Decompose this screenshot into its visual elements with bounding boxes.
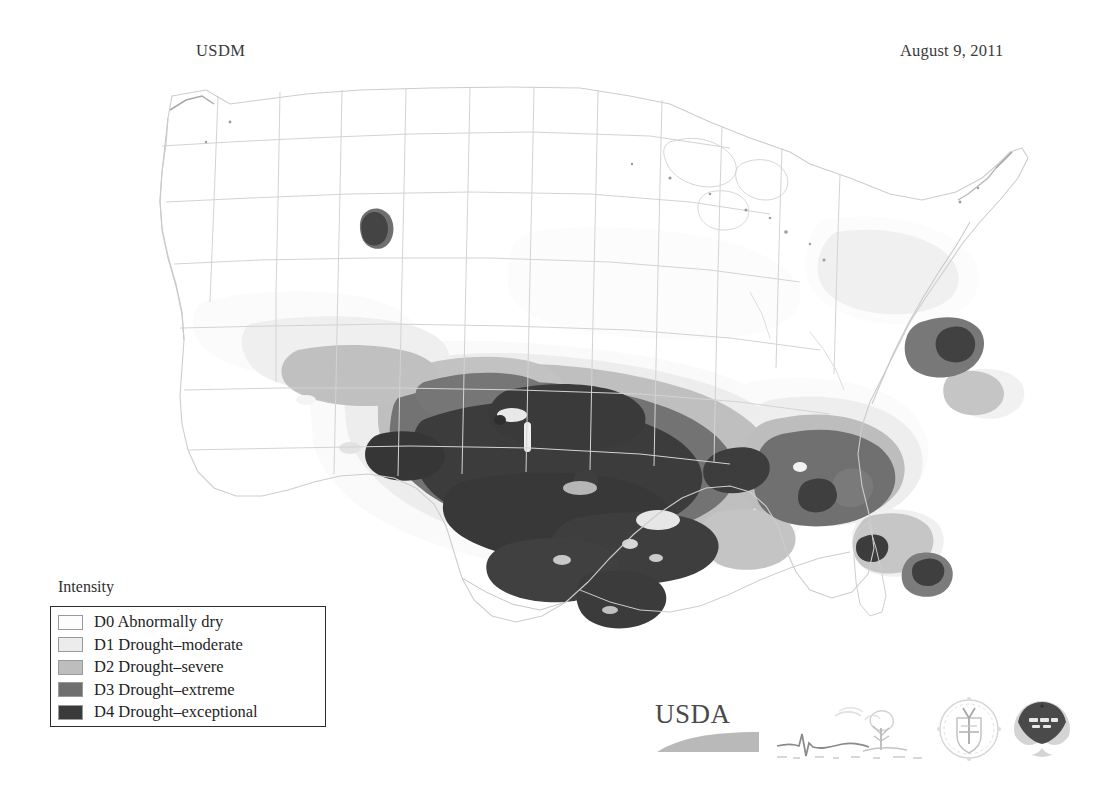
legend-label-d0: D0 Abnormally dry <box>94 614 223 631</box>
usda-wordmark-text: USDA <box>655 694 765 728</box>
noaa-logo <box>1007 694 1077 764</box>
legend-label-d1: D1 Drought–moderate <box>94 637 243 654</box>
noaa-logo-icon <box>1007 694 1077 764</box>
legend-title: Intensity <box>58 578 114 596</box>
map-date: August 9, 2011 <box>900 41 1003 61</box>
legend-swatch-d1 <box>58 637 83 652</box>
logo-strip: USDA <box>655 694 1075 766</box>
legend-item-d2[interactable]: D2 Drought–severe <box>51 656 325 679</box>
legend-item-d4[interactable]: D4 Drought–exceptional <box>51 701 325 724</box>
usda-logo: USDA <box>655 694 765 754</box>
legend-item-d3[interactable]: D3 Drought–extreme <box>51 679 325 702</box>
page-title: USDM <box>196 41 245 61</box>
ndmc-seal-icon <box>933 694 1005 764</box>
ndmc-seal <box>933 694 1005 764</box>
legend-label-d3: D3 Drought–extreme <box>94 682 235 699</box>
usda-swoosh-icon <box>655 728 765 754</box>
us-drought-map-svg <box>110 82 1040 662</box>
legend-box: D0 Abnormally dry D1 Drought–moderate D2… <box>50 606 326 727</box>
legend-label-d4: D4 Drought–exceptional <box>94 704 258 721</box>
legend-swatch-d0 <box>58 615 83 630</box>
drought-sketch-icon <box>773 694 928 764</box>
legend-item-d1[interactable]: D1 Drought–moderate <box>51 634 325 657</box>
legend-swatch-d4 <box>58 705 83 720</box>
drought-map <box>110 82 1040 662</box>
sketch-logo <box>773 694 928 764</box>
legend-item-d0[interactable]: D0 Abnormally dry <box>51 611 325 634</box>
legend-label-d2: D2 Drought–severe <box>94 659 224 676</box>
legend-swatch-d3 <box>58 682 83 697</box>
legend-swatch-d2 <box>58 660 83 675</box>
